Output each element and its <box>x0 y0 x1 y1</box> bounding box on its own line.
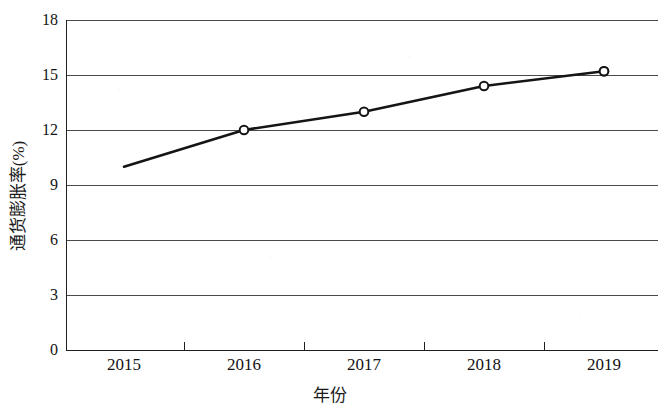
x-tick-label-2018: 2018 <box>444 356 524 373</box>
y-axis-title: 通货膨胀率(%) <box>2 96 30 296</box>
data-point-2015 <box>240 126 249 135</box>
data-point-2017 <box>480 82 489 91</box>
y-tick-label-0: 0 <box>18 342 58 358</box>
y-axis-title-text: 通货膨胀率(%) <box>4 141 29 251</box>
data-series-line <box>124 71 604 166</box>
x-tick-label-2017: 2017 <box>324 356 404 373</box>
x-tick-label-2015: 2015 <box>84 356 164 373</box>
y-tick-label-18: 18 <box>18 12 58 28</box>
y-tick-label-15: 15 <box>18 67 58 83</box>
inflation-rate-line-chart: 18 15 12 9 6 3 0 2015 2016 2017 2018 201… <box>0 0 660 407</box>
data-point-2019 <box>600 67 609 76</box>
x-tick-marks <box>185 342 545 350</box>
data-point-2016 <box>360 107 369 116</box>
x-tick-label-2019: 2019 <box>564 356 644 373</box>
x-tick-label-2016: 2016 <box>204 356 284 373</box>
chart-plot-area <box>0 0 660 407</box>
x-axis-title: 年份 <box>0 381 660 406</box>
